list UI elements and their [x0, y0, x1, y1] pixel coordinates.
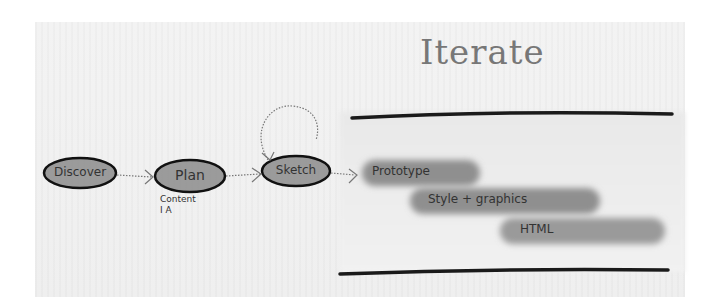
edge-sketch-self-loop: [261, 106, 318, 160]
edge-sketch-prototype: [331, 169, 357, 183]
node-label-sketch: Sketch: [264, 163, 328, 177]
edge-discover-plan: [117, 170, 153, 184]
iterate-title: Iterate: [420, 32, 545, 72]
bottom-rule: [340, 270, 668, 275]
node-label-discover: Discover: [48, 165, 112, 179]
plan-note-line: I A: [160, 205, 196, 216]
diagram-canvas: [0, 0, 705, 304]
stage-label-prototype: Prototype: [372, 164, 430, 178]
plan-note: Content I A: [160, 194, 196, 216]
top-rule: [352, 113, 672, 118]
plan-note-line: Content: [160, 194, 196, 205]
stage-label-style-graphics: Style + graphics: [428, 192, 527, 206]
edge-plan-sketch: [226, 168, 261, 182]
stage-label-html: HTML: [520, 222, 553, 236]
node-label-plan: Plan: [158, 167, 222, 183]
